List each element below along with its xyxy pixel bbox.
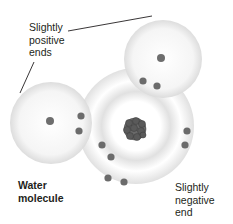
hydrogen-nucleus-top	[157, 54, 165, 62]
label-water-molecule: Water molecule	[18, 179, 64, 204]
label-slightly-positive-ends: Slightly positive ends	[29, 21, 65, 59]
oxygen-nucleus	[124, 118, 147, 141]
leader-line-left	[20, 62, 34, 93]
hydrogen-nucleus-left	[46, 117, 54, 125]
leader-line-top	[68, 16, 152, 31]
label-slightly-negative-end: Slightly negative end	[175, 181, 215, 219]
